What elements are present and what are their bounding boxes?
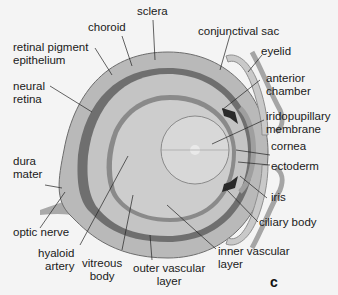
label-cornea: cornea (271, 140, 306, 153)
label-neural-retina: neural retina (13, 80, 45, 106)
label-iris: iris (271, 191, 286, 204)
label-outer-vascular-layer: outer vascular layer (133, 262, 205, 288)
panel-letter: c (270, 274, 278, 290)
label-sclera: sclera (137, 5, 168, 18)
label-eyelid: eyelid (261, 45, 291, 58)
label-inner-vascular-layer: inner vascular layer (218, 245, 290, 271)
label-iridopupillary-membrane: iridopupillary membrane (266, 110, 331, 136)
label-ciliary-body: ciliary body (259, 216, 317, 229)
label-retinal-pigment-epithelium: retinal pigment epithelium (13, 41, 88, 67)
label-hyaloid-artery: hyaloid artery (38, 247, 74, 273)
label-dura-mater: dura mater (13, 155, 42, 181)
label-conjunctival-sac: conjunctival sac (198, 25, 279, 38)
label-ectoderm: ectoderm (271, 160, 319, 173)
label-anterior-chamber: anterior chamber (266, 72, 311, 98)
label-vitreous-body: vitreous body (82, 257, 122, 283)
label-choroid: choroid (88, 21, 126, 34)
label-optic-nerve: optic nerve (13, 226, 69, 239)
